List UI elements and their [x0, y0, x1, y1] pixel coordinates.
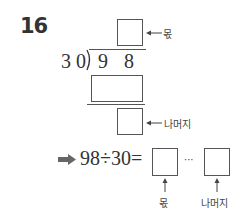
arrow-left-icon: [146, 119, 162, 127]
remainder-answer-box[interactable]: [117, 108, 143, 135]
quotient-answer-box[interactable]: [117, 19, 143, 46]
arrow-up-icon: [213, 178, 221, 192]
arrow-up-icon: [161, 178, 169, 192]
subtraction-line: [87, 104, 145, 105]
problem-number: 16: [20, 14, 47, 38]
remainder-label: 나머지: [164, 116, 191, 131]
bottom-quotient-label: 몫: [159, 195, 168, 210]
product-answer-box[interactable]: [91, 75, 143, 102]
ellipsis: ···: [184, 154, 194, 165]
bottom-remainder-label: 나머지: [201, 195, 228, 210]
quotient-label: 몫: [163, 26, 172, 41]
dividend-digit-2: 8: [124, 50, 134, 73]
equation-text: 98÷30=: [80, 147, 142, 170]
arrow-right-icon: [58, 154, 76, 165]
divisor: 3 0: [61, 50, 86, 73]
equation-remainder-box[interactable]: [204, 148, 230, 176]
equation-quotient-box[interactable]: [152, 148, 178, 176]
dividend-digit-1: 9: [98, 50, 108, 73]
arrow-left-icon: [146, 29, 162, 37]
division-bracket: [85, 49, 93, 71]
